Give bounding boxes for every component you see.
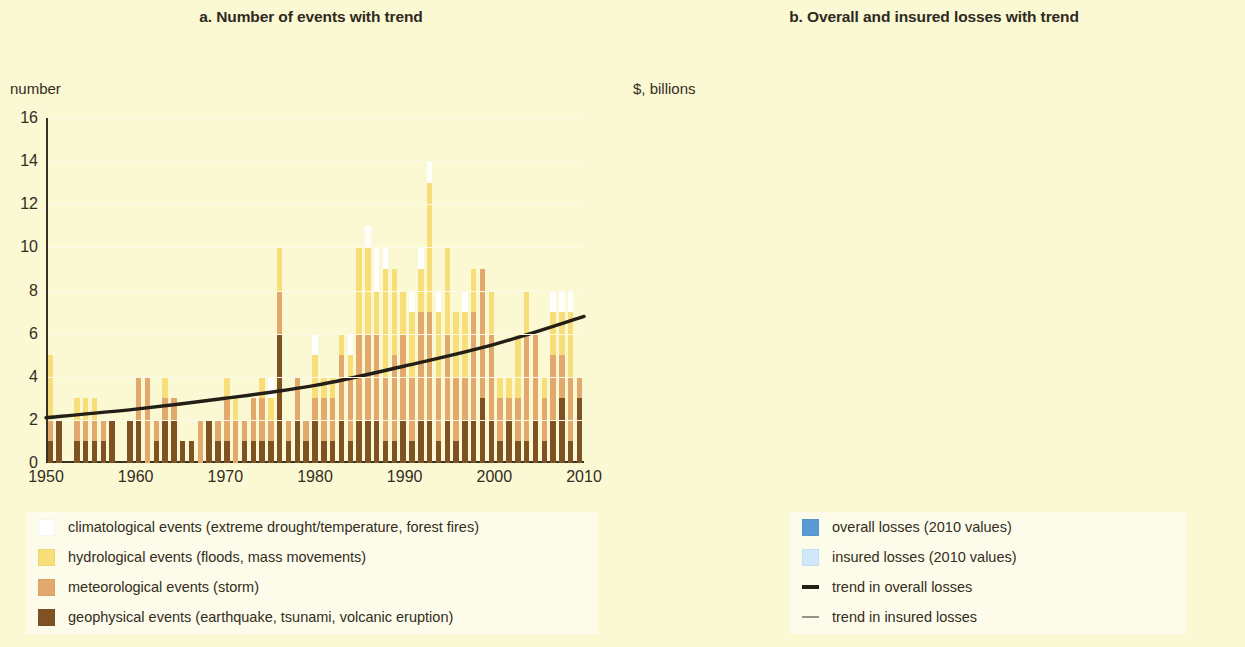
gridline [48, 247, 584, 248]
panel-a-title: a. Number of events with trend [0, 8, 622, 26]
panel-b-legend-item[interactable]: trend in insured losses [790, 602, 1186, 632]
x-tick-label: 2010 [566, 468, 602, 486]
y-tick-label: 10 [20, 238, 38, 256]
panel-b-axis-unit: $, billions [633, 80, 696, 97]
y-tick-label: 2 [29, 411, 38, 429]
legend-item-label: meteorological events (storm) [68, 579, 259, 595]
x-tick-label: 2000 [477, 468, 513, 486]
figure-root: a. Number of events with trend number 02… [0, 0, 1245, 647]
legend-panel-a: climatological events (extreme drought/t… [26, 512, 598, 634]
legend-color-swatch-icon [38, 579, 55, 596]
legend-item-label: hydrological events (floods, mass moveme… [68, 549, 366, 565]
legend-panel-b: overall losses (2010 values)insured loss… [790, 512, 1186, 634]
panel-b-legend-item[interactable]: insured losses (2010 values) [790, 542, 1186, 572]
panel-a-axis-unit: number [10, 80, 61, 97]
gridline [48, 377, 584, 378]
gridline [48, 420, 584, 421]
x-tick-label: 1980 [297, 468, 333, 486]
y-tick-label: 16 [20, 109, 38, 127]
x-tick-label: 1990 [387, 468, 423, 486]
legend-color-swatch-icon [38, 609, 55, 626]
panel-a-legend-item[interactable]: meteorological events (storm) [26, 572, 598, 602]
gridline [48, 204, 584, 205]
x-tick-label: 1970 [208, 468, 244, 486]
legend-color-swatch-icon [38, 519, 55, 536]
panel-b-legend-item[interactable]: trend in overall losses [790, 572, 1186, 602]
legend-item-label: trend in insured losses [832, 609, 977, 625]
legend-color-swatch-icon [802, 519, 819, 536]
x-tick-label: 1960 [118, 468, 154, 486]
legend-color-swatch-icon [802, 549, 819, 566]
legend-item-label: overall losses (2010 values) [832, 519, 1012, 535]
legend-item-label: insured losses (2010 values) [832, 549, 1017, 565]
y-tick-label: 14 [20, 152, 38, 170]
x-tick-label: 1950 [28, 468, 64, 486]
legend-item-label: trend in overall losses [832, 579, 972, 595]
gridline [48, 118, 584, 119]
panel-a-legend-item[interactable]: hydrological events (floods, mass moveme… [26, 542, 598, 572]
panel-a-legend-item[interactable]: climatological events (extreme drought/t… [26, 512, 598, 542]
legend-line-swatch-icon [802, 616, 819, 618]
legend-item-label: geophysical events (earthquake, tsunami,… [68, 609, 453, 625]
panel-a-plot-area: 0246810121416195019601970198019902000201… [46, 118, 584, 463]
gridline [48, 334, 584, 335]
y-tick-label: 4 [29, 368, 38, 386]
trend-in-number-of-events [46, 316, 584, 417]
y-tick-label: 12 [20, 195, 38, 213]
gridline [48, 161, 584, 162]
legend-color-swatch-icon [38, 549, 55, 566]
legend-line-swatch-icon [802, 585, 819, 589]
legend-item-label: climatological events (extreme drought/t… [68, 519, 479, 535]
panel-b-legend-item[interactable]: overall losses (2010 values) [790, 512, 1186, 542]
y-tick-label: 6 [29, 325, 38, 343]
y-tick-label: 8 [29, 282, 38, 300]
gridline [48, 291, 584, 292]
panel-a-legend-item[interactable]: geophysical events (earthquake, tsunami,… [26, 602, 598, 632]
panel-b-title: b. Overall and insured losses with trend [623, 8, 1245, 26]
